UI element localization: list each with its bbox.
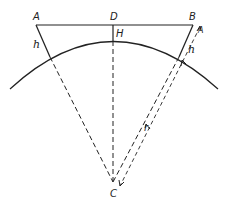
label-C: C: [110, 188, 117, 199]
label-B: B: [189, 11, 196, 22]
radius-left: [50, 57, 113, 182]
label-D: D: [110, 11, 118, 22]
label-h-right: h: [188, 43, 195, 56]
label-arrow-A: A: [197, 26, 203, 35]
arc-surface: [10, 42, 218, 90]
label-h-left: h: [33, 38, 40, 51]
radius-right: [113, 57, 179, 182]
label-A: A: [32, 11, 40, 22]
label-H: H: [116, 28, 124, 39]
arrow-r-bottom-icon: [119, 180, 124, 186]
diagram-canvas: A D B H C h h A r: [0, 0, 225, 204]
